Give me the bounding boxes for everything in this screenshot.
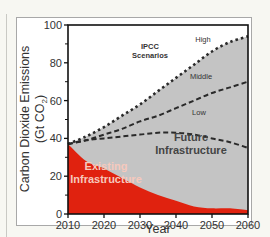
svg-text:2010: 2010 [56,219,80,231]
svg-text:60: 60 [50,95,62,107]
svg-text:20: 20 [50,170,62,182]
emissions-chart: 020406080100 201020202030204020502060 Ye… [0,0,270,237]
svg-text:40: 40 [50,132,62,144]
svg-text:(Gt CO2): (Gt CO2) [33,95,49,143]
svg-text:2050: 2050 [200,219,224,231]
svg-text:2060: 2060 [236,219,260,231]
svg-text:Carbon Dioxide Emissions: Carbon Dioxide Emissions [18,46,32,193]
svg-text:80: 80 [50,57,62,69]
y-axis-ticks: 020406080100 [44,19,68,220]
svg-text:100: 100 [44,19,62,31]
x-axis-label: Year [145,222,170,236]
existing-label-line2: Infrastructure [70,173,142,185]
ipcc-label-line2: Scenarios [132,51,168,60]
existing-label-line1: Existing [85,160,128,172]
ipcc-label-line1: IPCC [141,42,160,51]
high-label: High [195,35,210,44]
y-axis-label: Carbon Dioxide Emissions (Gt CO2) [18,46,49,193]
middle-label: Middle [190,72,212,81]
future-label-line2: Infrastructure [155,144,227,156]
svg-text:2020: 2020 [92,219,116,231]
future-label-line1: Future [174,131,208,143]
low-label: Low [192,108,206,117]
